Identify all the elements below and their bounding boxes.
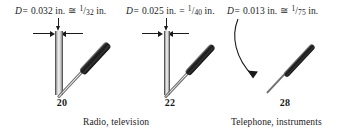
- dimension-line-left-22: [142, 33, 158, 34]
- caption-telephone-instruments: Telephone, instruments: [231, 117, 322, 127]
- probe-tool-22: [162, 39, 220, 101]
- caption-radio-television: Radio, television: [83, 117, 149, 127]
- probe-tool-28: [282, 37, 322, 79]
- probe-tool-20: [55, 39, 113, 101]
- probe-handle-28: [283, 43, 317, 78]
- gauge-number-28: 28: [270, 97, 300, 108]
- dimension-line-left-20: [33, 33, 50, 34]
- dimension-line-right-22: [173, 33, 189, 34]
- gauge-number-22: 22: [155, 97, 185, 108]
- probe-handle-20: [78, 41, 111, 76]
- wire-gauge-figure: D= 0.032 in. ≅ 1/32 in. D= 0.025 in. = 1…: [0, 0, 341, 140]
- probe-handle-22: [184, 43, 216, 77]
- arrow-right-icon-22: [158, 31, 163, 37]
- gauge-number-20: 20: [47, 97, 77, 108]
- dimension-line-right-20: [66, 33, 83, 34]
